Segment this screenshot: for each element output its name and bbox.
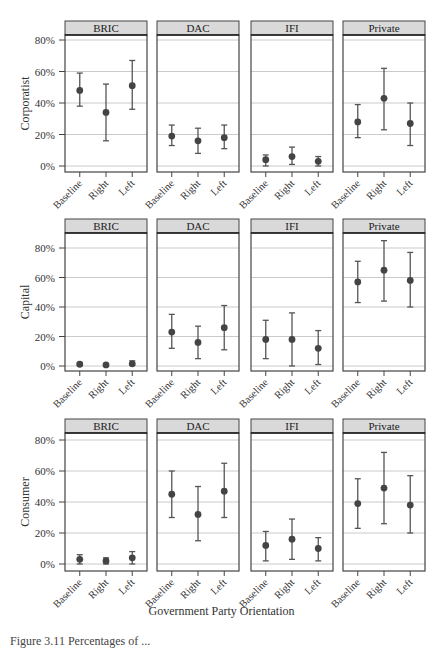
facet-strip-label: Private xyxy=(368,420,399,432)
panel-consumer-dac: DACBaselineRightLeft xyxy=(143,419,239,610)
panel-capital-ifi: IFIBaselineRightLeft xyxy=(237,219,333,410)
data-point xyxy=(262,156,269,163)
x-tick-label: Baseline xyxy=(237,177,271,211)
x-tick-label: Left xyxy=(209,377,229,397)
row-label-consumer: Consumer xyxy=(18,477,32,526)
y-tick-label: 60% xyxy=(35,66,55,78)
x-tick-label: Baseline xyxy=(143,177,177,211)
y-tick-label: 80% xyxy=(35,434,55,446)
x-tick-label: Right xyxy=(178,178,202,202)
data-point xyxy=(221,134,228,141)
panel-consumer-bric: BRICBaselineRightLeft xyxy=(51,419,147,610)
panel-capital-bric: BRICBaselineRightLeft xyxy=(51,219,147,410)
data-point xyxy=(354,500,361,507)
x-tick-label: Left xyxy=(117,577,137,597)
x-tick-label: Baseline xyxy=(329,376,363,410)
x-tick-label: Left xyxy=(209,178,229,198)
data-point xyxy=(195,511,202,518)
facet-strip-label: DAC xyxy=(186,420,209,432)
data-point xyxy=(407,277,414,284)
x-tick-label: Left xyxy=(209,577,229,597)
data-point xyxy=(381,485,388,492)
x-tick-label: Right xyxy=(86,577,110,601)
data-point xyxy=(168,133,175,140)
data-point xyxy=(129,360,136,367)
panel-consumer-ifi: IFIBaselineRightLeft xyxy=(237,419,333,610)
data-point xyxy=(381,267,388,274)
y-tick-label: 20% xyxy=(35,527,55,539)
x-axis-title: Government Party Orientation xyxy=(0,604,443,619)
row-label-capital: Capital xyxy=(18,284,32,319)
x-tick-label: Right xyxy=(178,377,202,401)
panel-background xyxy=(65,233,147,371)
facet-strip-label: BRIC xyxy=(93,220,119,232)
facet-strip-label: IFI xyxy=(285,22,299,34)
data-point xyxy=(381,95,388,102)
x-tick-label: Right xyxy=(272,577,296,601)
facet-strip-label: BRIC xyxy=(93,22,119,34)
facet-strip-label: IFI xyxy=(285,220,299,232)
data-point xyxy=(129,82,136,89)
y-tick-label: 80% xyxy=(35,34,55,46)
data-point xyxy=(289,536,296,543)
data-point xyxy=(195,339,202,346)
data-point xyxy=(262,542,269,549)
x-tick-label: Right xyxy=(272,178,296,202)
y-tick-label: 0% xyxy=(40,160,55,172)
y-tick-label: 40% xyxy=(35,301,55,313)
facet-strip-label: DAC xyxy=(186,220,209,232)
data-point xyxy=(129,554,136,561)
panel-corporatist-dac: DACBaselineRightLeft xyxy=(143,21,239,211)
x-tick-label: Baseline xyxy=(51,177,85,211)
panel-capital-dac: DACBaselineRightLeft xyxy=(143,219,239,410)
x-tick-label: Left xyxy=(395,178,415,198)
y-tick-label: 0% xyxy=(40,360,55,372)
facet-strip-label: IFI xyxy=(285,420,299,432)
data-point xyxy=(407,502,414,509)
x-tick-label: Left xyxy=(303,377,323,397)
data-point xyxy=(76,556,83,563)
x-tick-label: Left xyxy=(303,577,323,597)
data-point xyxy=(407,120,414,127)
y-tick-label: 60% xyxy=(35,272,55,284)
x-tick-label: Baseline xyxy=(51,376,85,410)
panel-corporatist-private: PrivateBaselineRightLeft xyxy=(329,21,425,211)
x-tick-label: Left xyxy=(395,577,415,597)
data-point xyxy=(262,336,269,343)
row-label-corporatist: Corporatist xyxy=(18,76,32,131)
data-point xyxy=(103,558,110,565)
data-point xyxy=(315,545,322,552)
x-tick-label: Right xyxy=(272,377,296,401)
data-point xyxy=(354,279,361,286)
data-point xyxy=(168,329,175,336)
x-tick-label: Right xyxy=(178,577,202,601)
facet-strip-label: DAC xyxy=(186,22,209,34)
y-tick-label: 80% xyxy=(35,242,55,254)
panel-corporatist-ifi: IFIBaselineRightLeft xyxy=(237,21,333,211)
x-tick-label: Left xyxy=(117,377,137,397)
data-point xyxy=(103,109,110,116)
data-point xyxy=(221,324,228,331)
panel-corporatist-bric: BRICBaselineRightLeft xyxy=(51,21,147,211)
y-tick-label: 60% xyxy=(35,465,55,477)
x-tick-label: Left xyxy=(117,178,137,198)
data-point xyxy=(289,153,296,160)
x-tick-label: Left xyxy=(303,178,323,198)
y-tick-label: 40% xyxy=(35,496,55,508)
data-point xyxy=(76,361,83,368)
data-point xyxy=(103,362,110,369)
facet-strip-label: Private xyxy=(368,220,399,232)
x-tick-label: Baseline xyxy=(237,376,271,410)
x-tick-label: Baseline xyxy=(143,376,177,410)
y-tick-label: 40% xyxy=(35,97,55,109)
x-tick-label: Right xyxy=(364,178,388,202)
y-tick-label: 20% xyxy=(35,331,55,343)
y-tick-label: 20% xyxy=(35,129,55,141)
data-point xyxy=(315,158,322,165)
x-tick-label: Right xyxy=(364,377,388,401)
x-tick-label: Right xyxy=(86,377,110,401)
data-point xyxy=(76,87,83,94)
data-point xyxy=(354,119,361,126)
